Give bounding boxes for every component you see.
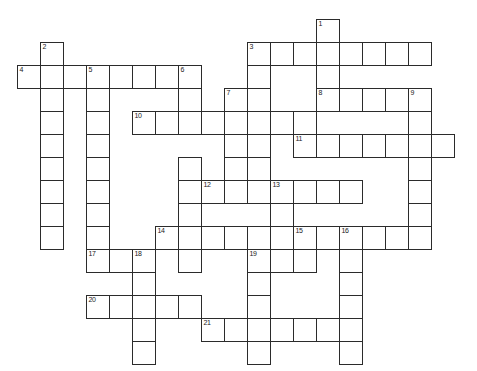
crossword-cell[interactable] (339, 88, 363, 112)
crossword-cell[interactable]: 16 (339, 226, 363, 250)
crossword-cell[interactable] (224, 111, 248, 135)
crossword-cell[interactable] (270, 249, 294, 273)
crossword-cell[interactable] (40, 157, 64, 181)
crossword-cell[interactable] (408, 157, 432, 181)
crossword-cell[interactable] (316, 134, 340, 158)
crossword-cell[interactable] (247, 226, 271, 250)
crossword-cell[interactable] (270, 318, 294, 342)
crossword-cell[interactable] (362, 42, 386, 66)
crossword-cell[interactable]: 10 (132, 111, 156, 135)
crossword-cell[interactable] (408, 42, 432, 66)
crossword-cell[interactable] (385, 134, 409, 158)
crossword-cell[interactable] (362, 88, 386, 112)
crossword-cell[interactable] (247, 272, 271, 296)
crossword-cell[interactable] (247, 295, 271, 319)
crossword-cell[interactable] (362, 134, 386, 158)
crossword-cell[interactable] (385, 42, 409, 66)
crossword-cell[interactable] (40, 88, 64, 112)
crossword-cell[interactable] (316, 318, 340, 342)
crossword-cell[interactable] (40, 111, 64, 135)
crossword-cell[interactable] (86, 134, 110, 158)
crossword-cell[interactable] (40, 65, 64, 89)
crossword-cell[interactable] (408, 203, 432, 227)
crossword-cell[interactable] (224, 134, 248, 158)
crossword-cell[interactable] (132, 65, 156, 89)
crossword-cell[interactable] (339, 134, 363, 158)
crossword-cell[interactable] (270, 42, 294, 66)
crossword-cell[interactable] (63, 65, 87, 89)
crossword-cell[interactable] (339, 295, 363, 319)
crossword-cell[interactable] (155, 111, 179, 135)
crossword-cell[interactable] (247, 111, 271, 135)
crossword-cell[interactable] (40, 180, 64, 204)
crossword-cell[interactable] (178, 180, 202, 204)
crossword-cell[interactable] (40, 226, 64, 250)
crossword-cell[interactable]: 18 (132, 249, 156, 273)
crossword-cell[interactable] (86, 180, 110, 204)
crossword-cell[interactable] (247, 88, 271, 112)
crossword-cell[interactable] (408, 134, 432, 158)
crossword-cell[interactable] (293, 42, 317, 66)
crossword-cell[interactable]: 20 (86, 295, 110, 319)
crossword-cell[interactable] (178, 249, 202, 273)
crossword-cell[interactable] (40, 203, 64, 227)
crossword-cell[interactable] (316, 42, 340, 66)
crossword-cell[interactable] (362, 226, 386, 250)
crossword-cell[interactable] (339, 341, 363, 365)
crossword-cell[interactable] (293, 111, 317, 135)
crossword-cell[interactable]: 19 (247, 249, 271, 273)
crossword-cell[interactable] (385, 88, 409, 112)
crossword-cell[interactable] (132, 295, 156, 319)
crossword-cell[interactable] (86, 88, 110, 112)
crossword-cell[interactable] (316, 65, 340, 89)
crossword-cell[interactable] (178, 88, 202, 112)
crossword-cell[interactable] (86, 111, 110, 135)
crossword-cell[interactable] (224, 157, 248, 181)
crossword-cell[interactable] (109, 249, 133, 273)
crossword-cell[interactable]: 14 (155, 226, 179, 250)
crossword-cell[interactable] (132, 341, 156, 365)
crossword-cell[interactable] (178, 295, 202, 319)
crossword-cell[interactable] (155, 65, 179, 89)
crossword-cell[interactable]: 8 (316, 88, 340, 112)
crossword-cell[interactable] (316, 180, 340, 204)
crossword-cell[interactable]: 6 (178, 65, 202, 89)
crossword-cell[interactable] (247, 157, 271, 181)
crossword-cell[interactable] (201, 226, 225, 250)
crossword-cell[interactable] (408, 111, 432, 135)
crossword-cell[interactable] (178, 203, 202, 227)
crossword-cell[interactable] (224, 318, 248, 342)
crossword-cell[interactable]: 2 (40, 42, 64, 66)
crossword-cell[interactable] (408, 180, 432, 204)
crossword-cell[interactable] (132, 318, 156, 342)
crossword-cell[interactable]: 7 (224, 88, 248, 112)
crossword-cell[interactable] (86, 157, 110, 181)
crossword-cell[interactable] (247, 65, 271, 89)
crossword-cell[interactable] (270, 111, 294, 135)
crossword-cell[interactable] (247, 318, 271, 342)
crossword-cell[interactable]: 12 (201, 180, 225, 204)
crossword-cell[interactable]: 13 (270, 180, 294, 204)
crossword-cell[interactable] (293, 318, 317, 342)
crossword-cell[interactable]: 4 (17, 65, 41, 89)
crossword-cell[interactable] (339, 318, 363, 342)
crossword-grid[interactable]: 123456789101112131415161718192021 (0, 0, 477, 371)
crossword-cell[interactable] (247, 180, 271, 204)
crossword-cell[interactable] (431, 134, 455, 158)
crossword-cell[interactable] (109, 65, 133, 89)
crossword-cell[interactable] (86, 203, 110, 227)
crossword-cell[interactable] (109, 295, 133, 319)
crossword-cell[interactable] (178, 111, 202, 135)
crossword-cell[interactable] (270, 203, 294, 227)
crossword-cell[interactable] (178, 226, 202, 250)
crossword-cell[interactable] (339, 272, 363, 296)
crossword-cell[interactable] (155, 295, 179, 319)
crossword-cell[interactable] (201, 111, 225, 135)
crossword-cell[interactable] (339, 180, 363, 204)
crossword-cell[interactable] (293, 249, 317, 273)
crossword-cell[interactable] (293, 180, 317, 204)
crossword-cell[interactable] (40, 134, 64, 158)
crossword-cell[interactable] (132, 272, 156, 296)
crossword-cell[interactable] (316, 226, 340, 250)
crossword-cell[interactable]: 15 (293, 226, 317, 250)
